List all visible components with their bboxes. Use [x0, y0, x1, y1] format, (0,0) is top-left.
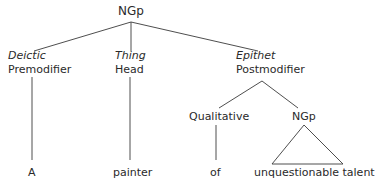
root-node-label: NGp: [118, 5, 144, 18]
leaf-a: A: [28, 166, 36, 179]
sub-ngp-label: NGp: [292, 110, 316, 123]
edge-postmod-qualitative: [219, 81, 262, 108]
epithet-label: Epithet: [236, 49, 275, 62]
leaf-painter: painter: [113, 166, 152, 179]
edge-root-deictic: [34, 22, 131, 51]
collapsed-triangle: [272, 125, 343, 164]
qualitative-label: Qualitative: [189, 110, 249, 123]
leaf-of: of: [210, 166, 221, 179]
edge-postmod-ngp: [262, 81, 298, 108]
postmodifier-label: Postmodifier: [236, 63, 305, 76]
premodifier-label: Premodifier: [8, 63, 71, 76]
head-label: Head: [115, 63, 144, 76]
thing-label: Thing: [115, 49, 146, 62]
edge-root-epithet: [131, 22, 258, 51]
leaf-unquestionable-talent: unquestionable talent: [254, 166, 375, 179]
deictic-label: Deictic: [8, 49, 46, 62]
